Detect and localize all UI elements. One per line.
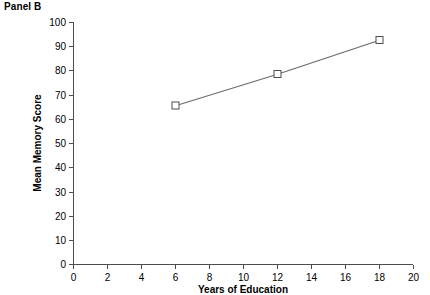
- y-axis-tick-marks: [69, 23, 73, 265]
- y-tick-label: 40: [55, 162, 67, 173]
- data-point-marker: [172, 102, 179, 109]
- y-tick-label: 0: [60, 259, 66, 270]
- x-tick-label: 16: [340, 272, 352, 283]
- x-tick-label: 2: [105, 272, 111, 283]
- y-tick-label: 30: [55, 187, 67, 198]
- line-chart-plot: 100 90 80 70 60 50 40 30 20 10 0: [0, 0, 430, 295]
- x-tick-label: 10: [238, 272, 250, 283]
- y-tick-label: 80: [55, 65, 67, 76]
- y-tick-label: 60: [55, 114, 67, 125]
- y-axis-title: Mean Memory Score: [32, 94, 43, 192]
- x-axis-tick-marks: [74, 265, 414, 269]
- y-tick-label: 10: [55, 235, 67, 246]
- x-tick-label: 14: [306, 272, 318, 283]
- x-tick-label: 12: [272, 272, 284, 283]
- x-axis-title: Years of Education: [198, 284, 288, 295]
- y-tick-label: 70: [55, 90, 67, 101]
- x-axis-tick-labels: 0 2 4 6 8 10 12 14 16 18 20: [71, 272, 420, 283]
- data-point-marker: [376, 37, 383, 44]
- data-point-markers: [172, 37, 383, 110]
- x-tick-label: 18: [374, 272, 386, 283]
- x-tick-label: 6: [173, 272, 179, 283]
- y-tick-label: 20: [55, 211, 67, 222]
- chart-figure: Panel B 100 90 80 70 60 50 40 30 20 10 0: [0, 0, 430, 295]
- x-tick-label: 20: [408, 272, 420, 283]
- y-tick-label: 100: [49, 17, 66, 28]
- y-axis-tick-labels: 100 90 80 70 60 50 40 30 20 10 0: [49, 17, 66, 270]
- x-tick-label: 0: [71, 272, 77, 283]
- x-tick-label: 4: [139, 272, 145, 283]
- y-tick-label: 90: [55, 41, 67, 52]
- x-tick-label: 8: [207, 272, 213, 283]
- y-tick-label: 50: [55, 138, 67, 149]
- data-point-marker: [274, 71, 281, 78]
